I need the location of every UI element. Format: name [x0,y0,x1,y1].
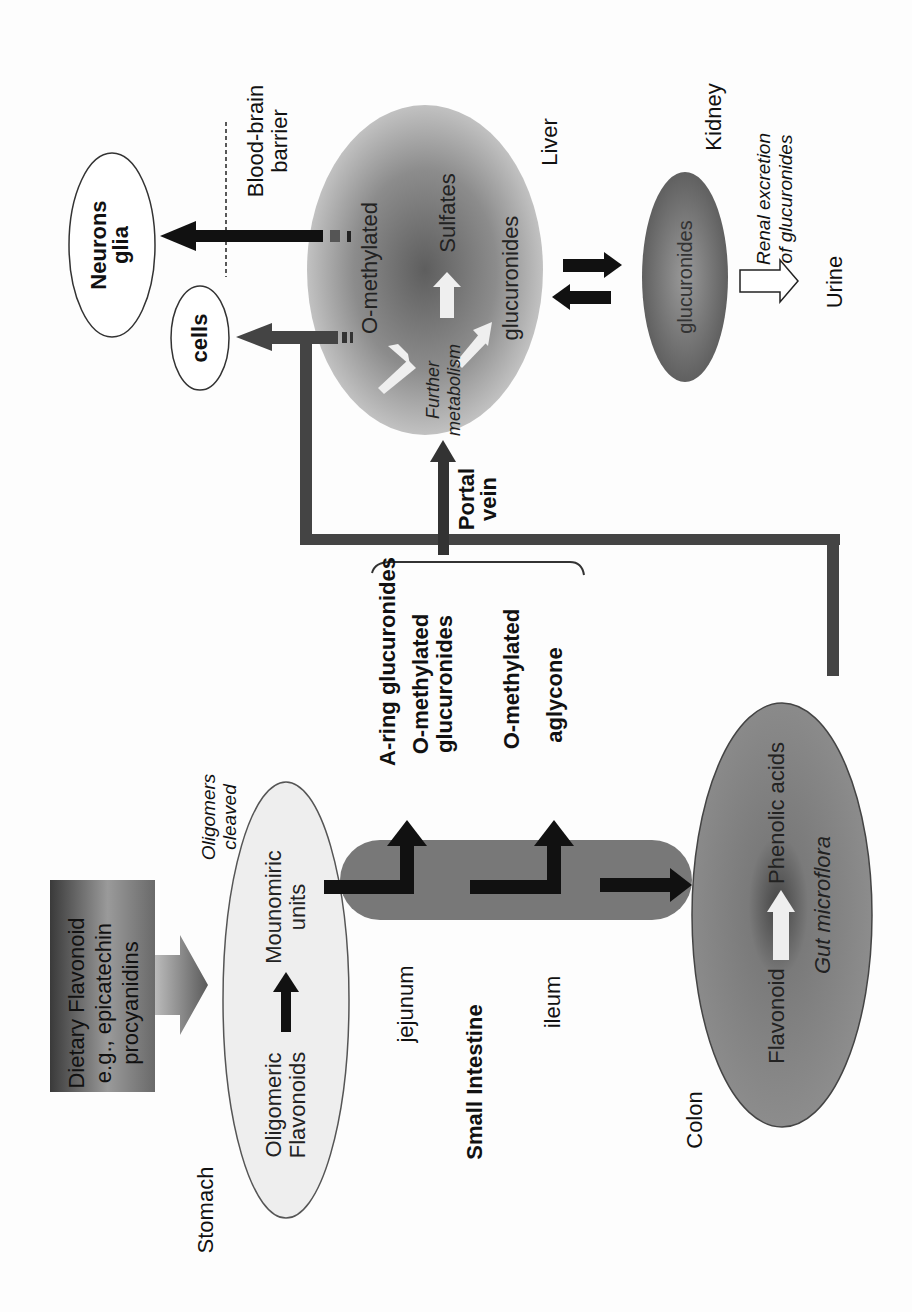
stomach-oligomeric-flavonoids: Oligomeric Flavonoids [262,1040,312,1170]
neurons-glia-label: Neurons glia [88,185,136,305]
colon-label: Colon [683,1085,707,1155]
metabolite-o-methylated-glucuronides: O-methylated glucuronides [409,597,457,772]
colon-flavonoid: Flavonoid [764,966,790,1066]
liver-sulfates: Sulfates [435,163,461,263]
liver-glucuronides: glucuronides [498,198,524,358]
colon-phenolic-acids: Phenolic acids [764,738,790,888]
urine-label: Urine [823,247,847,317]
kidney-glucuronides: glucuronides [673,212,697,342]
renal-excretion-label: Renal excretion of glucuronides [753,119,801,279]
liver-label: Liver [538,112,562,172]
cells-label: cells [188,303,212,373]
metabolite-aglycone: aglycone [543,645,567,745]
colon-gut-microflora: Gut microflora [810,830,836,980]
metabolite-o-methylated: O-methylated [500,604,524,754]
stomach-mounomiric-units: Mounomiric units [262,842,312,972]
liver-o-methylated: O-methylated [357,188,383,348]
jejunum-label: jejunum [394,954,418,1054]
stomach-label: Stomach [194,1160,218,1260]
small-intestine-label: Small Intestine [463,1002,487,1162]
metabolite-a-ring-glucuronides: A-ring glucuronides [376,566,400,766]
kidney-label: Kidney [702,77,726,157]
liver-further-metabolism: Further metabolism [423,335,467,445]
blood-brain-barrier-label: Blood-brain barrier [244,71,296,211]
oligomers-cleaved-note: Oligomers cleaved [198,767,242,867]
ileum-label: ileum [541,967,565,1037]
dietary-flavonoid-text: Dietary Flavonoid e.g., epicatechin proc… [63,901,143,1106]
portal-vein-label: Portal vein [456,464,504,534]
